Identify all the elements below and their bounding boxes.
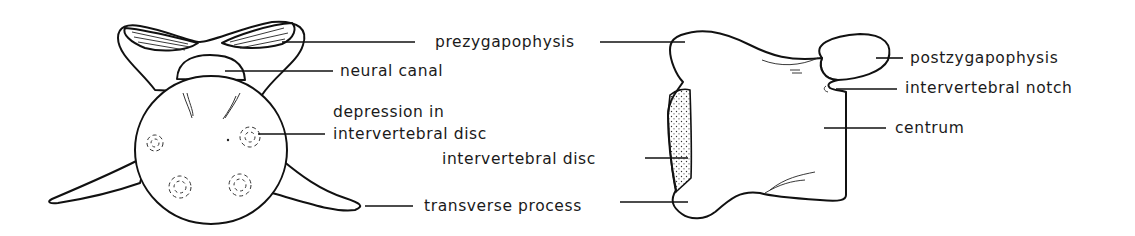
label-centrum: centrum	[895, 119, 964, 137]
label-intervertebral-disc: intervertebral disc	[442, 150, 596, 168]
vertebra-anterior-view	[49, 22, 360, 224]
label-neural-canal: neural canal	[340, 62, 443, 80]
vertebra-diagram: prezygapophysis neural canal depression …	[0, 0, 1135, 236]
label-postzygapophysis: postzygapophysis	[910, 49, 1058, 67]
postzygapophysis	[819, 34, 889, 80]
label-depression-line1: depression in	[333, 103, 444, 121]
vertebra-body	[668, 31, 846, 218]
label-transverse-process: transverse process	[424, 197, 582, 215]
transverse-process-left	[49, 155, 148, 203]
intervertebral-disc	[668, 89, 691, 192]
label-prezygapophysis: prezygapophysis	[435, 33, 575, 51]
label-depression-line2: intervertebral disc	[333, 125, 487, 143]
vertebra-lateral-view	[668, 31, 889, 218]
label-intervertebral-notch: intervertebral notch	[905, 79, 1072, 97]
